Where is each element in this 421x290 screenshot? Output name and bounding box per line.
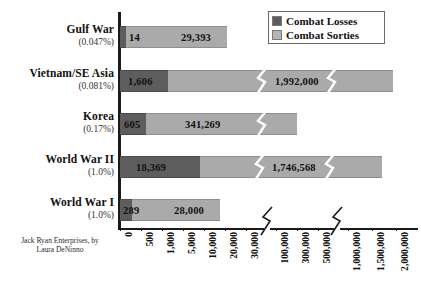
- category-name: World War I: [4, 197, 114, 209]
- credit-line-2: Laura DeNinno: [8, 245, 112, 254]
- x-tick-label-1000000: 1,000,000: [352, 232, 362, 271]
- tick-mark: [372, 228, 373, 231]
- tick-mark: [246, 228, 247, 231]
- legend-item-combat-losses[interactable]: Combat Losses: [272, 14, 381, 28]
- x-axis-segment-1: [118, 228, 264, 230]
- x-axis-segment-3: [340, 228, 418, 230]
- category-percent: (0.047%): [4, 38, 114, 48]
- tick-mark: [348, 228, 349, 231]
- category-label-vietnam-se-asia: Vietnam/SE Asia (0.081%): [4, 68, 114, 91]
- x-axis-segment-2: [270, 228, 334, 230]
- tick-mark: [183, 228, 184, 231]
- credit-text: Jack Ryan Enterprises, by Laura DeNinno: [8, 236, 112, 255]
- tick-mark: [396, 228, 397, 231]
- x-tick-label-500: 500: [145, 232, 155, 247]
- bar-value-combat-sorties: 28,000: [174, 205, 204, 216]
- bar-segment-combat-sorties[interactable]: [126, 26, 227, 48]
- tick-mark: [318, 228, 319, 231]
- bar-value-combat-losses: 18,369: [136, 162, 166, 173]
- credit-line-1: Jack Ryan Enterprises, by: [8, 236, 112, 245]
- bar-segment-combat-sorties[interactable]: [146, 113, 297, 135]
- x-tick-label-100000: 100,000: [280, 232, 290, 264]
- bar-value-combat-sorties: 1,992,000: [275, 76, 319, 87]
- tick-mark: [204, 228, 205, 231]
- bar-value-combat-sorties: 29,393: [181, 32, 211, 43]
- legend-item-combat-sorties[interactable]: Combat Sorties: [272, 28, 381, 42]
- legend: Combat Losses Combat Sorties: [268, 11, 385, 44]
- bar-value-combat-sorties: 1,746,568: [272, 162, 316, 173]
- legend-label: Combat Losses: [286, 16, 357, 27]
- category-percent: (0.17%): [4, 125, 114, 135]
- tick-mark: [225, 228, 226, 231]
- legend-swatch-icon: [272, 16, 282, 26]
- tick-mark: [297, 228, 298, 231]
- bar-value-combat-sorties: 341,269: [185, 119, 221, 130]
- category-name: Vietnam/SE Asia: [4, 68, 114, 80]
- category-label-gulf-war: Gulf War (0.047%): [4, 24, 114, 47]
- tick-mark: [120, 228, 121, 231]
- category-label-korea: Korea (0.17%): [4, 111, 114, 134]
- x-tick-label-5000: 5,000: [187, 232, 197, 254]
- category-label-world-war-i: World War I (1.0%): [4, 197, 114, 220]
- bar-value-combat-losses: 14: [129, 32, 140, 43]
- category-label-world-war-ii: World War II (1.0%): [4, 154, 114, 177]
- tick-mark: [141, 228, 142, 231]
- x-tick-label-30000: 30,000: [250, 232, 260, 259]
- category-name: Gulf War: [4, 24, 114, 36]
- bar-value-combat-losses: 605: [124, 119, 140, 130]
- bar-value-combat-losses: 289: [123, 205, 139, 216]
- x-tick-label-20000: 20,000: [229, 232, 239, 259]
- x-tick-label-0: 0: [124, 232, 134, 237]
- x-tick-label-1000: 1,000: [166, 232, 176, 254]
- category-percent: (1.0%): [4, 168, 114, 178]
- category-name: World War II: [4, 154, 114, 166]
- category-percent: (1.0%): [4, 211, 114, 221]
- x-tick-label-2000000: 2,000,000: [400, 232, 410, 271]
- category-percent: (0.081%): [4, 82, 114, 92]
- bar-value-combat-losses: 1,606: [128, 76, 153, 87]
- tick-mark: [276, 228, 277, 231]
- x-tick-label-500000: 500,000: [322, 232, 332, 264]
- chart-container: Gulf War (0.047%) Vietnam/SE Asia (0.081…: [0, 0, 421, 290]
- x-tick-label-300000: 300,000: [301, 232, 311, 264]
- legend-label: Combat Sorties: [286, 30, 359, 41]
- tick-mark: [162, 228, 163, 231]
- x-tick-label-1500000: 1,500,000: [376, 232, 386, 271]
- category-name: Korea: [4, 111, 114, 123]
- x-tick-label-10000: 10,000: [208, 232, 218, 259]
- legend-swatch-icon: [272, 30, 282, 40]
